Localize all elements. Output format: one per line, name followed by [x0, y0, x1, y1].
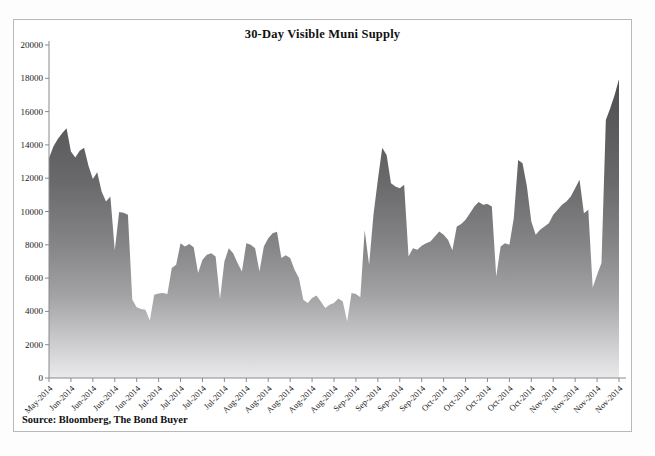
plot-area: 0200040006000800010000120001400016000180… [14, 20, 633, 433]
svg-text:14000: 14000 [21, 140, 44, 150]
svg-text:0: 0 [39, 373, 44, 383]
svg-text:10000: 10000 [21, 207, 44, 217]
svg-text:8000: 8000 [25, 240, 44, 250]
supply-area-series [49, 79, 619, 378]
svg-text:4000: 4000 [25, 306, 44, 316]
svg-text:16000: 16000 [21, 107, 44, 117]
svg-text:20000: 20000 [21, 40, 44, 50]
chart-frame: 30-Day Visible Muni Supply 0200040006000… [13, 19, 632, 432]
svg-text:12000: 12000 [21, 173, 44, 183]
svg-text:Jun-2014: Jun-2014 [113, 383, 143, 413]
svg-text:2000: 2000 [25, 340, 44, 350]
x-axis-labels: May-2014Jun-2014Jun-2014Jun-2014Jun-2014… [22, 378, 625, 415]
screenshot-root: { "figure": { "title": "30-Day Visible M… [0, 0, 655, 456]
svg-text:18000: 18000 [21, 73, 44, 83]
source-note: Source: Bloomberg, The Bond Buyer [22, 414, 188, 425]
svg-text:6000: 6000 [25, 273, 44, 283]
svg-text:May-2014: May-2014 [22, 383, 55, 416]
y-axis-labels: 0200040006000800010000120001400016000180… [21, 40, 50, 383]
